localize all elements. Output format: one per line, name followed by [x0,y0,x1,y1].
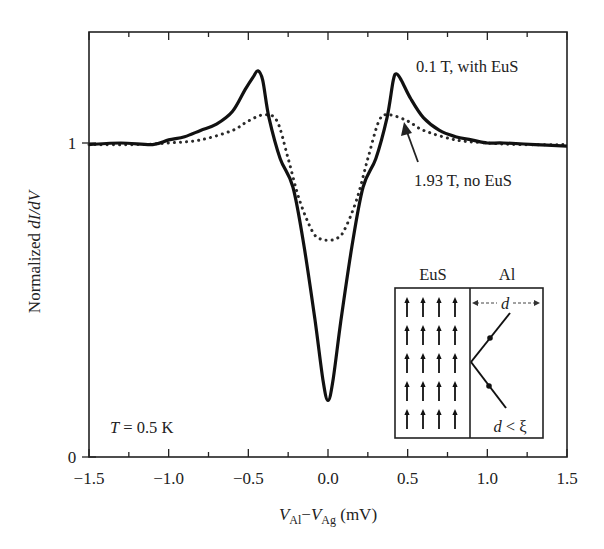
x-tick-label: −1.5 [74,469,105,488]
inset-thickness-d: d [501,294,510,313]
x-tick-label: 1.0 [477,469,498,488]
x-tick-labels: −1.5−1.0−0.50.00.51.01.5 [74,469,578,488]
x-tick-label: −0.5 [233,469,264,488]
inset-label-eus: EuS [419,265,447,284]
annotation-arrow-icon [401,122,418,162]
x-tick-label: −1.0 [153,469,184,488]
y-tick-label-1: 1 [68,134,77,153]
x-tick-label: 0.0 [317,469,338,488]
dIdV-chart: −1.5−1.0−0.50.00.51.01.5 0 1 0.1 T, with… [0,0,604,549]
x-tick-label: 0.5 [397,469,418,488]
temperature-label: T = 0.5 K [110,418,173,437]
inset-box [395,288,543,438]
y-tick-label-0: 0 [68,448,77,467]
y-axis-title: Normalized dI/dV [25,188,44,313]
x-tick-label: 1.5 [556,469,577,488]
inset-label-al: Al [499,265,516,284]
annotation-dotted-curve: 1.93 T, no EuS [414,171,512,190]
inset-schematic: EuS Al d d < ξ [395,265,543,438]
x-axis-title: VAl−VAg (mV) [279,505,377,527]
annotation-solid-curve: 0.1 T, with EuS [416,57,519,76]
inset-condition: d < ξ [493,417,526,436]
